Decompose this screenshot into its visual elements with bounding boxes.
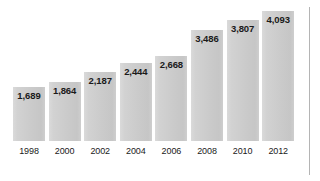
bar-value-label: 3,486	[191, 34, 223, 44]
bar-chart: 1,6891,8642,1872,4442,6683,4863,8074,093…	[0, 0, 320, 181]
bar-group: 3,807	[227, 20, 259, 141]
x-tick-label: 2012	[262, 145, 294, 157]
bar-group: 3,486	[191, 30, 223, 141]
bar-value-label: 2,187	[84, 76, 116, 86]
bar-group: 1,864	[49, 82, 81, 141]
bar-value-label: 1,689	[13, 91, 45, 101]
bar	[227, 20, 259, 141]
x-tick-label: 1998	[13, 145, 45, 157]
bar-group: 2,668	[155, 56, 187, 141]
plot-area: 1,6891,8642,1872,4442,6683,4863,8074,093	[0, 0, 320, 141]
bar-value-label: 1,864	[49, 86, 81, 96]
bar-group: 2,444	[120, 63, 152, 141]
bar-group: 1,689	[13, 87, 45, 141]
x-tick-label: 2000	[49, 145, 81, 157]
bar-value-label: 4,093	[262, 15, 294, 25]
x-tick-label: 2004	[120, 145, 152, 157]
x-tick-label: 2006	[155, 145, 187, 157]
bar-value-label: 2,444	[120, 67, 152, 77]
bar-group: 2,187	[84, 72, 116, 141]
bar	[262, 11, 294, 141]
bar-group: 4,093	[262, 11, 294, 141]
right-border-rule	[309, 7, 310, 175]
x-tick-label: 2002	[84, 145, 116, 157]
x-axis-labels: 19982000200220042006200820102012	[0, 145, 320, 161]
x-tick-label: 2010	[227, 145, 259, 157]
bar-value-label: 2,668	[155, 60, 187, 70]
bar	[191, 30, 223, 141]
x-tick-label: 2008	[191, 145, 223, 157]
bar-value-label: 3,807	[227, 24, 259, 34]
